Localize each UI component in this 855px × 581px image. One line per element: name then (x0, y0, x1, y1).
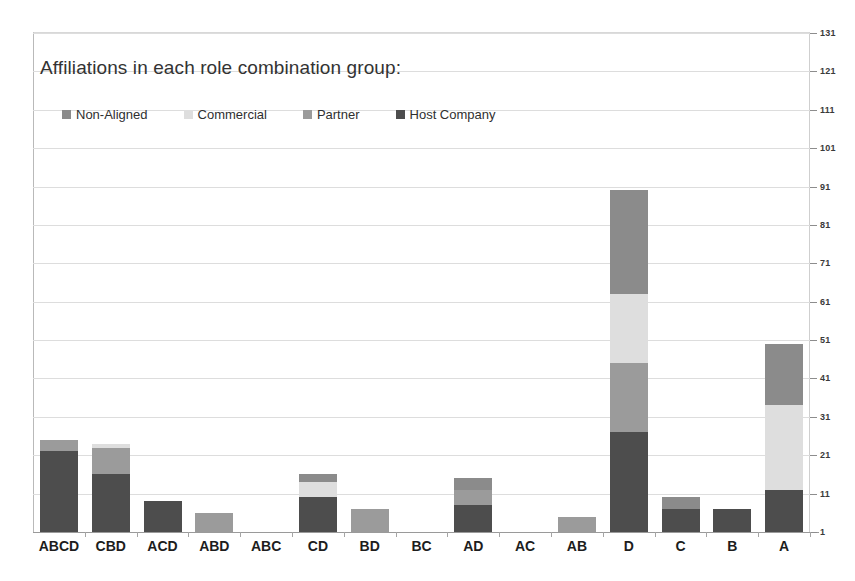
x-axis-label-c: C (675, 538, 685, 554)
stacked-bar[interactable] (351, 509, 389, 532)
x-axis-tick (810, 532, 811, 537)
x-axis-label-d: D (624, 538, 634, 554)
stacked-bar[interactable] (454, 478, 492, 532)
bar-segment[interactable] (610, 190, 648, 294)
x-axis-label-ac: AC (515, 538, 535, 554)
x-axis-label-ab: AB (567, 538, 587, 554)
bar-segment[interactable] (765, 490, 803, 532)
x-axis-tick (396, 532, 397, 537)
x-axis-label-abcd: ABCD (39, 538, 79, 554)
stacked-bar[interactable] (662, 497, 700, 532)
x-axis-tick (344, 532, 345, 537)
bar-segment[interactable] (713, 509, 751, 532)
x-axis-tick (188, 532, 189, 537)
bar-segment[interactable] (765, 344, 803, 405)
bar-segment[interactable] (92, 444, 130, 448)
stacked-bar[interactable] (610, 190, 648, 532)
bar-segment[interactable] (662, 509, 700, 532)
bar-segment[interactable] (454, 478, 492, 490)
bar-segment[interactable] (662, 497, 700, 509)
bar-segment[interactable] (299, 482, 337, 497)
x-axis-tick (655, 532, 656, 537)
x-axis-label-bc: BC (411, 538, 431, 554)
x-axis-tick (499, 532, 500, 537)
x-axis-label-abd: ABD (199, 538, 229, 554)
bar-segment[interactable] (144, 501, 182, 532)
bar-segment[interactable] (40, 451, 78, 532)
bar-segment[interactable] (92, 474, 130, 532)
x-axis-tick (85, 532, 86, 537)
x-axis-tick (603, 532, 604, 537)
x-axis-tick (551, 532, 552, 537)
x-axis-tick (292, 532, 293, 537)
x-axis-label-a: A (779, 538, 789, 554)
x-axis-tick (240, 532, 241, 537)
stacked-bar[interactable] (144, 501, 182, 532)
x-axis-label-b: B (727, 538, 737, 554)
stacked-bar[interactable] (558, 517, 596, 532)
stacked-bar[interactable] (713, 509, 751, 532)
x-axis-label-acd: ACD (147, 538, 177, 554)
bar-segment[interactable] (454, 505, 492, 532)
bar-segment[interactable] (299, 497, 337, 532)
bar-segment[interactable] (765, 405, 803, 489)
x-axis-tick (758, 532, 759, 537)
stacked-bar[interactable] (299, 474, 337, 532)
stacked-bar[interactable] (40, 440, 78, 532)
bar-segment[interactable] (40, 440, 78, 452)
bar-segment[interactable] (92, 448, 130, 475)
bar-segment[interactable] (558, 517, 596, 532)
bar-segment[interactable] (299, 474, 337, 482)
x-axis-label-ad: AD (463, 538, 483, 554)
chart-container: 1112131415161718191101111121131 Affiliat… (0, 0, 855, 581)
x-axis-label-cd: CD (308, 538, 328, 554)
x-axis-label-abc: ABC (251, 538, 281, 554)
bar-segment[interactable] (610, 294, 648, 363)
bar-segment[interactable] (195, 513, 233, 532)
stacked-bar[interactable] (195, 513, 233, 532)
stacked-bar[interactable] (92, 444, 130, 532)
x-axis-tick (137, 532, 138, 537)
bar-segment[interactable] (351, 509, 389, 532)
x-axis-label-bd: BD (360, 538, 380, 554)
x-axis-tick (706, 532, 707, 537)
bar-segment[interactable] (610, 432, 648, 532)
bars-layer (0, 0, 855, 581)
bar-segment[interactable] (610, 363, 648, 432)
x-axis-tick (447, 532, 448, 537)
stacked-bar[interactable] (765, 344, 803, 532)
x-axis-label-cbd: CBD (96, 538, 126, 554)
bar-segment[interactable] (454, 490, 492, 505)
